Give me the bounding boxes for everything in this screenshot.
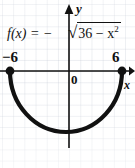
y-axis-arrowhead [65,4,74,14]
tick-label-six: 6 [112,50,120,65]
radicand-group: 36 − x2 [77,22,120,42]
origin-label: 0 [71,73,78,86]
radicand-text: 36 − x [78,26,114,41]
radicand-exponent: 2 [114,24,119,34]
y-axis-label: y [76,2,82,15]
radical-sign: √ [68,23,77,42]
graph-figure: f(x) = − √36 − x2 −6 6 0 y x [0,0,135,168]
endpoint-dot-right [118,67,127,76]
function-formula-lhs: f(x) = − [7,26,52,41]
endpoint-dot-left [6,67,15,76]
radical-expression: √36 − x2 [68,22,121,43]
x-axis-arrowhead [129,67,135,76]
curve-f-of-x [10,71,122,132]
tick-label-minus-six: −6 [2,50,18,65]
function-formula: f(x) = − [7,27,52,41]
x-axis-label: x [124,79,130,91]
